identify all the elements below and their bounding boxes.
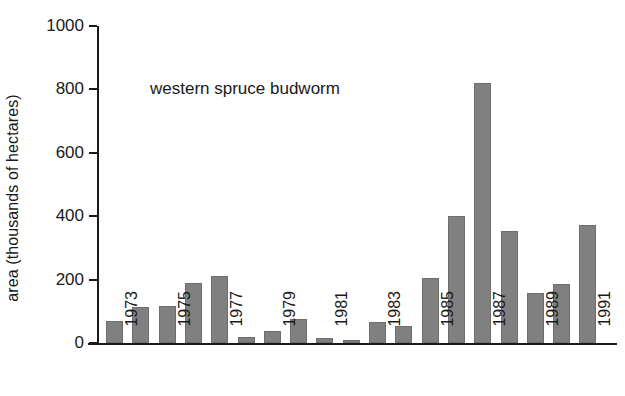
x-axis-tick-label: 1979 bbox=[281, 291, 298, 351]
x-axis-tick-label: 1985 bbox=[439, 291, 456, 351]
bar bbox=[369, 322, 386, 343]
y-axis-tick: 0 bbox=[89, 342, 97, 344]
bar bbox=[106, 321, 123, 343]
y-axis-tick-label: 200 bbox=[56, 270, 84, 290]
y-axis-tick-label: 0 bbox=[75, 333, 84, 353]
bar bbox=[264, 331, 281, 343]
y-axis-tick-label: 400 bbox=[56, 206, 84, 226]
x-axis-tick-label: 1975 bbox=[176, 291, 193, 351]
x-axis-tick-label: 1989 bbox=[544, 291, 561, 351]
x-axis-tick-label: 1977 bbox=[228, 291, 245, 351]
y-axis-line bbox=[97, 26, 99, 343]
bar bbox=[527, 293, 544, 343]
x-axis-tick-label: 1983 bbox=[386, 291, 403, 351]
x-axis-tick-label: 1981 bbox=[333, 291, 350, 351]
y-axis-tick-label: 1000 bbox=[46, 16, 84, 36]
y-axis-label: area (thousands of hectares) bbox=[0, 0, 26, 396]
y-axis-tick: 1000 bbox=[89, 25, 97, 27]
y-axis-tick: 200 bbox=[89, 279, 97, 281]
y-axis-tick-label: 600 bbox=[56, 143, 84, 163]
bar bbox=[211, 276, 228, 343]
bar bbox=[316, 338, 333, 343]
bar bbox=[579, 225, 596, 343]
chart-annotation-western-spruce-budworm: western spruce budworm bbox=[150, 79, 340, 99]
x-axis-tick-label: 1987 bbox=[491, 291, 508, 351]
y-axis-tick: 600 bbox=[89, 152, 97, 154]
y-axis-tick: 800 bbox=[89, 88, 97, 90]
x-axis-tick-label: 1991 bbox=[596, 291, 613, 351]
plot-area: 02004006008001000 1973197519771979198119… bbox=[97, 26, 617, 343]
bar-chart-figure: area (thousands of hectares) 02004006008… bbox=[0, 0, 625, 396]
bar bbox=[422, 278, 439, 343]
x-axis-line bbox=[88, 343, 617, 345]
bar bbox=[159, 306, 176, 343]
y-axis-tick-label: 800 bbox=[56, 79, 84, 99]
x-axis-tick-label: 1973 bbox=[123, 291, 140, 351]
bar bbox=[474, 83, 491, 343]
y-axis-tick: 400 bbox=[89, 215, 97, 217]
